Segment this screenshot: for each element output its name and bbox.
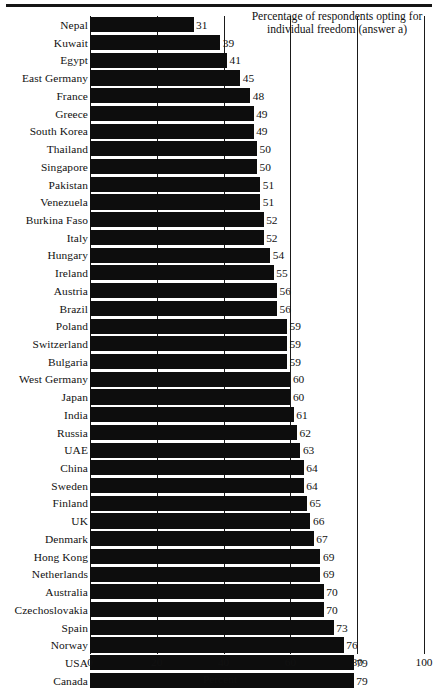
bar-value-label: 55: [274, 267, 288, 279]
bar-value-label: 76: [344, 639, 358, 651]
x-tick-label-100: 100: [415, 656, 432, 669]
category-label: Sweden: [51, 480, 88, 492]
bar: [90, 620, 334, 635]
bar-value-label: 49: [254, 125, 268, 137]
bar-chart-figure: Percentage of respondents opting for ind…: [0, 0, 438, 690]
bar: [90, 106, 254, 121]
bar-value-label: 50: [257, 161, 271, 173]
category-label: Australia: [45, 586, 88, 598]
bar-value-label: 56: [277, 303, 291, 315]
bar: [90, 354, 287, 369]
category-label: Bulgaria: [48, 356, 88, 368]
bar: [90, 265, 274, 280]
bar: [90, 177, 260, 192]
x-tick-label-20: 20: [151, 656, 162, 669]
bar: [90, 124, 254, 139]
bar: [90, 159, 257, 174]
bar-value-label: 63: [300, 444, 314, 456]
bar-row: Netherlands69: [0, 566, 438, 584]
bar-row: Norway76: [0, 636, 438, 654]
bar-row: Czechoslovakia70: [0, 601, 438, 619]
category-label: West Germany: [19, 373, 88, 385]
bar-value-label: 45: [240, 72, 254, 84]
bar: [90, 513, 310, 528]
bar: [90, 301, 277, 316]
bar-row: China64: [0, 459, 438, 477]
bar: [90, 478, 304, 493]
bar-value-label: 54: [270, 249, 284, 261]
bar: [90, 389, 290, 404]
bar: [90, 602, 324, 617]
bar-row: UAE63: [0, 441, 438, 459]
category-label: Singapore: [41, 161, 88, 173]
bar-row: Australia70: [0, 583, 438, 601]
category-label: Spain: [62, 622, 88, 634]
x-tick-label-40: 40: [218, 656, 229, 669]
bar-row: Russia62: [0, 424, 438, 442]
category-label: Czechoslovakia: [14, 604, 88, 616]
bar-value-label: 65: [307, 497, 321, 509]
bar-value-label: 64: [304, 480, 318, 492]
category-label: Kuwait: [54, 37, 88, 49]
bar-value-label: 67: [314, 533, 328, 545]
bar: [90, 35, 220, 50]
x-axis-title: Percent: [0, 673, 438, 685]
bar-value-label: 51: [260, 179, 274, 191]
bar-row: Denmark67: [0, 530, 438, 548]
bar-value-label: 62: [297, 427, 311, 439]
bar-value-label: 69: [320, 551, 334, 563]
bar-row: France48: [0, 87, 438, 105]
category-label: Austria: [54, 285, 88, 297]
bar-row: Kuwait39: [0, 34, 438, 52]
bar-value-label: 59: [287, 320, 301, 332]
bar-row: Italy52: [0, 229, 438, 247]
category-label: Hong Kong: [34, 551, 88, 563]
category-label: Burkina Faso: [26, 214, 88, 226]
bar-row: Venezuela51: [0, 193, 438, 211]
bar-value-label: 52: [264, 232, 278, 244]
bar-value-label: 41: [227, 54, 241, 66]
category-label: India: [64, 409, 88, 421]
bar: [90, 460, 304, 475]
category-label: Greece: [55, 108, 88, 120]
bar: [90, 425, 297, 440]
category-label: Netherlands: [32, 568, 88, 580]
category-label: UAE: [64, 444, 88, 456]
bar-value-label: 59: [287, 356, 301, 368]
category-label: Brazil: [60, 303, 88, 315]
category-label: Nepal: [60, 19, 88, 31]
bar: [90, 17, 194, 32]
bar-value-label: 39: [220, 37, 234, 49]
bar-value-label: 59: [287, 338, 301, 350]
category-label: Russia: [57, 427, 88, 439]
bar: [90, 283, 277, 298]
bar-value-label: 51: [260, 196, 274, 208]
category-label: Pakistan: [49, 179, 88, 191]
bar-row: East Germany45: [0, 69, 438, 87]
category-label: Egypt: [60, 54, 88, 66]
x-tick-label-60: 60: [285, 656, 296, 669]
bar-value-label: 49: [254, 108, 268, 120]
bar: [90, 53, 227, 68]
bar-row: Switzerland59: [0, 335, 438, 353]
bar: [90, 637, 344, 652]
category-label: UK: [71, 515, 88, 527]
bar-value-label: 48: [250, 90, 264, 102]
category-label: Ireland: [55, 267, 88, 279]
bar: [90, 141, 257, 156]
bar-row: Thailand50: [0, 140, 438, 158]
bar: [90, 531, 314, 546]
category-label: Poland: [56, 320, 88, 332]
bar-value-label: 60: [290, 391, 304, 403]
category-label: Thailand: [47, 143, 88, 155]
bar-row: West Germany60: [0, 371, 438, 389]
bar-value-label: 70: [324, 604, 338, 616]
category-label: South Korea: [30, 125, 88, 137]
bar: [90, 319, 287, 334]
bar-value-label: 56: [277, 285, 291, 297]
bar: [90, 549, 320, 564]
bar: [90, 212, 264, 227]
bar-value-label: 73: [334, 622, 348, 634]
bar: [90, 496, 307, 511]
x-tick-label-0: 0: [87, 656, 93, 669]
